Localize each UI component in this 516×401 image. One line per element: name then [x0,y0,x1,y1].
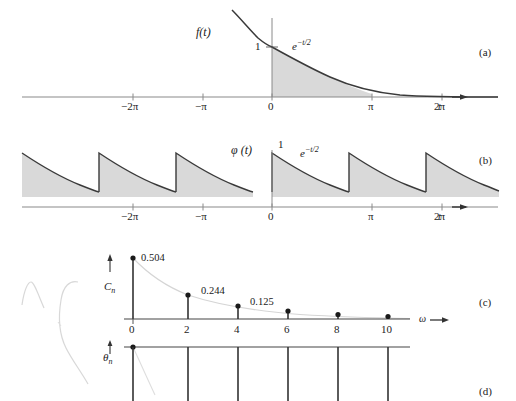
scan-artifact-marks [0,252,110,401]
panel-d-envelope-curve [133,347,155,395]
panel-c-stem-marker-6 [285,308,290,313]
panel-a-xtick-label-3: π [368,100,374,112]
panel-c-stem-marker-8 [335,312,340,317]
panel-b-exponent-label: e−t/2 [300,145,319,159]
panel-c-yaxis-sub: n [111,286,115,295]
panel-c-axis-label: ω [419,313,426,324]
panel-a-xtick-label-1: −π [195,100,207,112]
panel-c-stem-marker-10 [385,314,390,319]
panel-c-xtick-label-4: 8 [334,323,340,335]
panel-d-stems [130,344,388,401]
panel-a-exponent-sup: −t/2 [297,38,311,47]
panel-c-xtick-label-1: 2 [184,323,190,335]
panel-c-stem-marker-4 [235,303,240,308]
panel-c-stem-marker-2 [185,292,190,297]
panel-a-exponent-label: e−t/2 [292,38,311,52]
panel-c-id: (c) [479,296,491,308]
panel-c-value-label-1: 0.244 [201,285,225,296]
panel-c-xtick-label-5: 10 [381,323,392,335]
panel-a-id: (a) [479,46,491,58]
panel-c-axis-arrow [430,315,452,325]
panel-a-axis-label: t [438,100,441,112]
panel-b-xtick-label-3: π [368,210,374,222]
panel-b-waveform [22,153,499,197]
panel-c-value-label-2: 0.125 [250,296,274,307]
panel-a-xtick-label-2: 0 [268,100,274,112]
panel-a-plot [0,0,516,110]
panel-b-function-label: φ (t) [231,143,252,158]
panel-c-value-label-0: 0.504 [141,252,165,263]
panel-c-xtick-label-0: 0 [129,323,135,335]
panel-c-xtick-label-2: 4 [234,323,240,335]
panel-c-envelope-curve [133,258,410,319]
panel-d-id: (d) [479,385,492,397]
panel-c-stems [130,255,390,319]
panel-b-id: (b) [479,154,492,166]
figure-root: f(t) 1 e−t/2 −2π −π 0 π 2π t (a) [0,0,516,401]
panel-a-function-label: f(t) [196,25,211,40]
panel-b-xtick-label-0: −2π [121,210,138,222]
panel-b-axis-label: t [438,210,441,222]
panel-b-xtick-label-1: −π [195,210,207,222]
panel-c-xtick-label-3: 6 [284,323,290,335]
panel-b-xtick-label-2: 0 [268,210,274,222]
panel-a-xtick-label-0: −2π [121,100,138,112]
panel-b-exponent-sup: −t/2 [305,145,319,154]
panel-c-stem-marker-0 [130,255,135,260]
panel-a-amplitude-label: 1 [255,40,261,52]
panel-b-amplitude-label: 1 [278,138,284,150]
